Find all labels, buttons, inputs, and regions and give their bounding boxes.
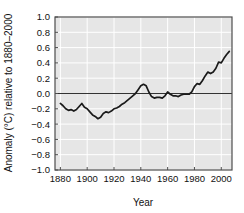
chart-canvas: −1.0−0.8−0.6−0.4−0.20.00.20.40.60.81.0 1… xyxy=(0,0,244,213)
y-tick-label: −0.2 xyxy=(31,103,50,114)
x-axis-title: Year xyxy=(133,197,154,208)
x-tick-label: 1900 xyxy=(77,173,98,184)
x-tick-label: 1980 xyxy=(184,173,205,184)
y-tick-label: 0.2 xyxy=(37,73,50,84)
y-tick-label: −1.0 xyxy=(31,164,50,175)
x-tick-label: 1960 xyxy=(157,173,178,184)
x-tick-label: 1880 xyxy=(50,173,71,184)
x-axis-tick-labels: 1880190019201940196019802000 xyxy=(50,173,232,184)
y-tick-label: 0.4 xyxy=(37,57,50,68)
y-tick-label: 0.6 xyxy=(37,42,50,53)
x-tick-label: 2000 xyxy=(211,173,232,184)
y-tick-label: −0.4 xyxy=(31,119,50,130)
x-tick-label: 1920 xyxy=(103,173,124,184)
x-tick-label: 1940 xyxy=(130,173,151,184)
temperature-anomaly-chart: −1.0−0.8−0.6−0.4−0.20.00.20.40.60.81.0 1… xyxy=(0,0,244,213)
y-axis-tick-labels: −1.0−0.8−0.6−0.4−0.20.00.20.40.60.81.0 xyxy=(31,11,50,175)
y-tick-label: 0.0 xyxy=(37,88,50,99)
y-tick-label: 0.8 xyxy=(37,27,50,38)
y-axis-title: Anomaly (°C) relative to 1880–2000 xyxy=(3,13,14,172)
y-tick-label: −0.8 xyxy=(31,149,50,160)
y-tick-label: 1.0 xyxy=(37,11,50,22)
y-tick-label: −0.6 xyxy=(31,134,50,145)
